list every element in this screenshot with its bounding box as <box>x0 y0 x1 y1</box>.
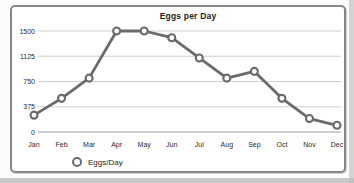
data-point-dec <box>334 122 341 129</box>
series-line <box>34 31 337 125</box>
page-edge-bottom <box>0 178 354 183</box>
chart-frame: Eggs per Day 037575011251500JanFebMarApr… <box>10 5 346 173</box>
data-point-jan <box>31 112 38 119</box>
x-tick-label-mar: Mar <box>83 141 96 148</box>
legend-label: Eggs/Day <box>88 158 123 167</box>
data-point-may <box>141 28 148 35</box>
data-point-jun <box>168 34 175 41</box>
y-tick-label: 750 <box>23 78 35 85</box>
x-tick-label-may: May <box>138 141 152 149</box>
x-tick-label-jun: Jun <box>166 141 177 148</box>
x-tick-label-dec: Dec <box>331 141 344 148</box>
y-tick-label: 1500 <box>19 28 35 35</box>
x-tick-label-feb: Feb <box>56 141 68 148</box>
y-tick-label: 1125 <box>20 53 35 60</box>
x-tick-label-sep: Sep <box>248 141 261 149</box>
data-point-oct <box>278 95 285 102</box>
data-point-sep <box>251 68 258 75</box>
chart-plot: 037575011251500JanFebMarAprMayJunJulAugS… <box>12 7 344 171</box>
x-tick-label-oct: Oct <box>276 141 287 148</box>
x-tick-label-apr: Apr <box>111 141 123 149</box>
y-tick-label: 0 <box>31 129 35 136</box>
data-point-mar <box>86 75 93 82</box>
x-tick-label-jan: Jan <box>28 141 39 148</box>
data-point-jul <box>196 54 203 61</box>
page: Eggs per Day 037575011251500JanFebMarApr… <box>0 0 354 183</box>
legend-series-marker-icon <box>72 157 82 167</box>
legend: Eggs/Day <box>72 156 123 168</box>
x-tick-label-aug: Aug <box>221 141 234 149</box>
data-point-nov <box>306 115 313 122</box>
x-tick-label-nov: Nov <box>303 141 316 148</box>
y-tick-label: 375 <box>23 103 35 110</box>
page-edge-right <box>349 0 354 183</box>
x-tick-label-jul: Jul <box>195 141 204 148</box>
data-point-feb <box>58 95 65 102</box>
data-point-aug <box>223 75 230 82</box>
data-point-apr <box>113 28 120 35</box>
